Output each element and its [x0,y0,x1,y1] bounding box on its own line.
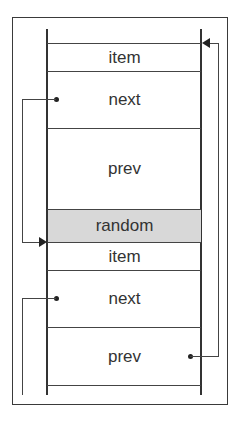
node2-next-wire-v [22,298,23,395]
node1-prev-label: prev [108,159,141,179]
arrow-left-icon [201,38,210,48]
node2-prev-field: prev [48,328,201,385]
node2-prev-wire-v [218,43,219,357]
node1-next-wire-h2 [22,242,40,243]
node2-item-field: item [48,243,201,270]
node2-prev-wire-h [190,356,218,357]
random-field: random [48,210,201,242]
node1-prev-field: prev [48,129,201,209]
node1-item-label: item [108,48,140,68]
node1-next-wire-h [22,99,56,100]
node1-item-field: item [48,44,201,71]
node1-next-field: next [48,72,201,128]
node2-next-wire-h [22,298,56,299]
node1-next-label: next [108,90,140,110]
separator [47,385,201,386]
node2-next-field: next [48,271,201,327]
node2-next-label: next [108,289,140,309]
node2-item-label: item [108,247,140,267]
node2-prev-label: prev [108,347,141,367]
arrow-right-icon [39,237,48,247]
random-label: random [96,216,154,236]
node1-next-wire-v [22,99,23,242]
